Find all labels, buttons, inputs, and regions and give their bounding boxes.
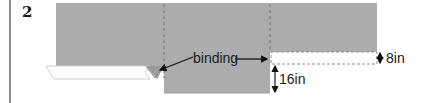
fabric-panel-right xyxy=(270,3,377,52)
fabric-panel-middle xyxy=(164,3,270,93)
dimension-label-16in: 16in xyxy=(279,72,305,86)
binding-strip-outline xyxy=(271,52,377,64)
fabric-panel-left xyxy=(56,3,164,66)
dimension-label-8in: 8in xyxy=(386,51,405,65)
folded-binding-strip xyxy=(46,66,150,79)
binding-label: binding xyxy=(193,51,238,65)
